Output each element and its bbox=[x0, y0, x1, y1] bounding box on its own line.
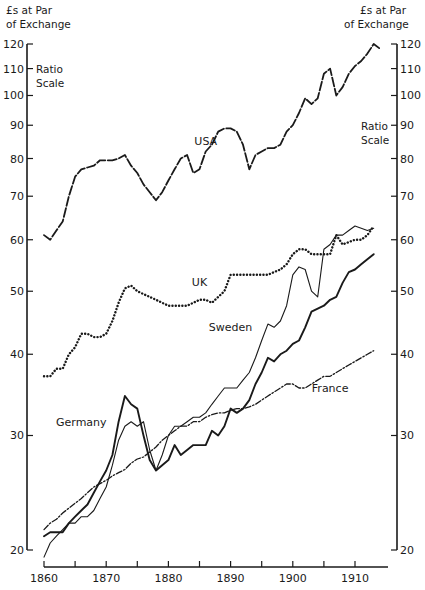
series-line-germany bbox=[44, 254, 374, 536]
left-y-tick-label: 90 bbox=[10, 119, 24, 132]
x-tick-label: 1880 bbox=[154, 572, 182, 585]
left-y-tick-label: 100 bbox=[3, 89, 24, 102]
left-y-tick-label: 120 bbox=[3, 38, 24, 51]
right-axis-title-line2: of Exchange bbox=[344, 18, 409, 30]
x-tick-label: 1870 bbox=[92, 572, 120, 585]
x-tick-label: 1860 bbox=[30, 572, 58, 585]
left-y-tick-label: 70 bbox=[10, 190, 24, 203]
x-tick-label: 1900 bbox=[279, 572, 307, 585]
left-y-tick-label: 60 bbox=[10, 234, 24, 247]
left-y-tick-label: 20 bbox=[10, 544, 24, 557]
right-y-tick-label: 110 bbox=[400, 63, 421, 76]
right-y-tick-label: 70 bbox=[400, 190, 414, 203]
series-label-uk: UK bbox=[192, 276, 208, 289]
left-y-tick-label: 40 bbox=[10, 348, 24, 361]
right-y-tick-label: 40 bbox=[400, 348, 414, 361]
left-y-tick-label: 30 bbox=[10, 429, 24, 442]
right-y-ticks: 2030405060708090100110120 bbox=[391, 38, 421, 557]
right-scale-note-line2: Scale bbox=[361, 134, 389, 146]
series-label-france: France bbox=[312, 382, 349, 395]
left-scale-note-line1: Ratio bbox=[36, 63, 63, 75]
left-y-ticks: 2030405060708090100110120 bbox=[3, 38, 33, 557]
left-scale-note-line2: Scale bbox=[36, 77, 64, 89]
right-y-tick-label: 20 bbox=[400, 544, 414, 557]
right-y-tick-label: 80 bbox=[400, 153, 414, 166]
right-y-tick-label: 60 bbox=[400, 234, 414, 247]
left-axis-title-line1: £s at Par bbox=[6, 4, 53, 16]
series-label-sweden: Sweden bbox=[209, 321, 252, 334]
right-y-tick-label: 120 bbox=[400, 38, 421, 51]
left-y-tick-label: 110 bbox=[3, 63, 24, 76]
right-y-tick-label: 30 bbox=[400, 429, 414, 442]
right-y-tick-label: 100 bbox=[400, 89, 421, 102]
x-tick-label: 1890 bbox=[217, 572, 245, 585]
left-y-tick-label: 80 bbox=[10, 153, 24, 166]
series-label-usa: USA bbox=[194, 135, 217, 148]
right-axis-title-line1: £s at Par bbox=[360, 4, 407, 16]
chart: £s at Par of Exchange Ratio Scale £s at … bbox=[0, 0, 425, 590]
x-tick-label: 1910 bbox=[341, 572, 369, 585]
right-y-tick-label: 90 bbox=[400, 119, 414, 132]
series-layer bbox=[44, 44, 380, 557]
left-y-tick-label: 50 bbox=[10, 285, 24, 298]
right-scale-note-line1: Ratio bbox=[361, 120, 388, 132]
x-ticks: 186018701880189019001910 bbox=[30, 561, 369, 585]
series-labels: USAUKGermanySwedenFrance bbox=[56, 135, 349, 430]
series-label-germany: Germany bbox=[56, 416, 107, 429]
right-y-tick-label: 50 bbox=[400, 285, 414, 298]
left-axis-title-line2: of Exchange bbox=[6, 18, 71, 30]
